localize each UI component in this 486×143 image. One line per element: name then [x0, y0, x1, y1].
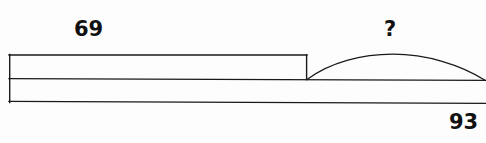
bar-model-drawing: [0, 0, 486, 143]
bar-model-figure: 69 ? 93: [0, 0, 486, 143]
unknown-part-label: ?: [384, 19, 396, 40]
middle-line: [9, 79, 486, 81]
known-part-label: 69: [74, 19, 103, 40]
bottom-line: [9, 101, 486, 103]
unknown-part-arc: [307, 54, 485, 80]
total-label: 93: [449, 112, 478, 133]
